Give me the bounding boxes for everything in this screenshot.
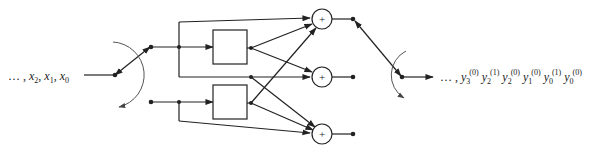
adder-bottom: + [312, 124, 332, 144]
adder-top: + [312, 9, 332, 29]
output-rotation-arc [391, 51, 406, 98]
filter-block-top [213, 30, 247, 64]
adder-middle: + [312, 67, 332, 87]
output-contact-mid [351, 75, 356, 80]
block-diagram: … , x2, x1, x0 + + + [0, 0, 598, 149]
input-rotation-arc [113, 42, 144, 107]
input-commutator [113, 42, 150, 107]
svg-text:+: + [319, 13, 325, 25]
input-sequence-label: … , x2, x1, x0 [8, 69, 69, 85]
filter-top-to-adder-top [251, 24, 312, 48]
output-commutator [355, 21, 433, 98]
output-contact-top [351, 17, 356, 22]
svg-text:+: + [319, 128, 325, 140]
top-bypass-line [179, 18, 310, 22]
output-sequence-label: … , y3(0) y2(1) y2(0) y1(0) y0(1) y0(0) [440, 68, 582, 86]
filter-block-bottom [213, 85, 247, 119]
bottom-bypass-line [179, 121, 310, 133]
svg-text:+: + [319, 71, 325, 83]
mid-to-adder-bottom [251, 77, 315, 127]
input-switch-arm [115, 47, 150, 75]
filter-bottom-to-adder-top [251, 28, 316, 103]
filter-bottom-to-adder-bottom [251, 103, 313, 130]
output-switch-arm [355, 21, 401, 76]
output-contact-bottom [351, 132, 356, 137]
